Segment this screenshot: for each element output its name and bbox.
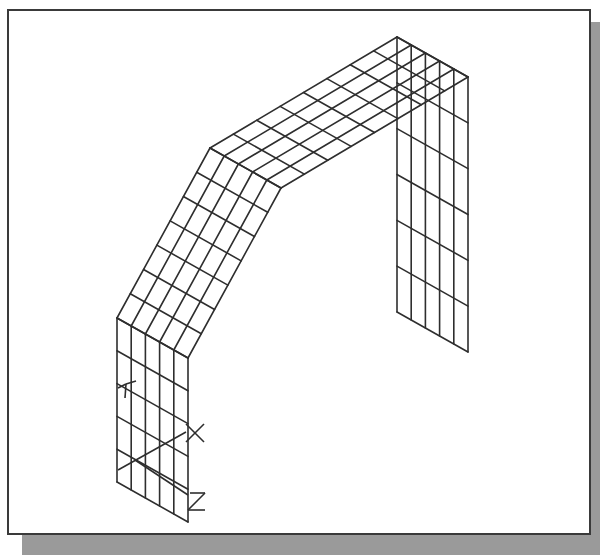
- mesh-line: [397, 83, 468, 123]
- mesh-line: [210, 148, 281, 188]
- mesh-line: [257, 120, 328, 160]
- mesh-line: [130, 294, 201, 334]
- mesh-line: [160, 172, 253, 342]
- wireframe-mesh: [0, 0, 601, 557]
- z-axis-glyph: [188, 493, 205, 510]
- mesh-line: [397, 220, 468, 260]
- mesh-line: [397, 129, 468, 169]
- mesh-line: [183, 197, 254, 237]
- triad-leg-lines: [118, 432, 188, 495]
- mesh-line: [397, 312, 468, 352]
- mesh-line: [327, 79, 398, 119]
- mesh-line: [233, 134, 304, 174]
- mesh-line: [117, 449, 188, 489]
- mesh-line: [374, 51, 445, 91]
- mesh-line: [397, 266, 468, 306]
- mesh-line: [144, 269, 215, 309]
- mesh-line: [174, 180, 267, 350]
- mesh-line: [280, 106, 351, 146]
- mesh-line: [304, 93, 375, 133]
- mesh-line: [397, 37, 468, 77]
- mesh-grid: [117, 37, 468, 522]
- mesh-line: [157, 245, 228, 285]
- mesh-line: [188, 188, 281, 358]
- mesh-line: [197, 172, 268, 212]
- mesh-line: [117, 318, 188, 358]
- mesh-line: [117, 148, 210, 318]
- mesh-line: [117, 351, 188, 391]
- mesh-line: [145, 164, 238, 334]
- mesh-line: [170, 221, 241, 261]
- mesh-line: [117, 384, 188, 424]
- mesh-line: [131, 156, 224, 326]
- mesh-line: [397, 175, 468, 215]
